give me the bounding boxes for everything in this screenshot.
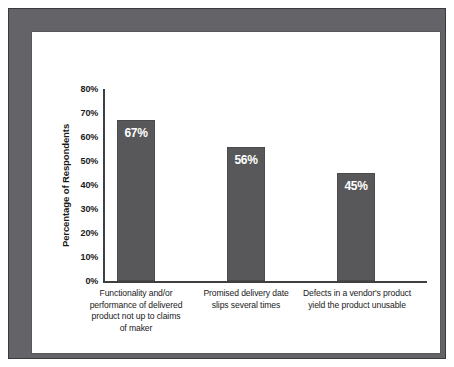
category-label-functionality-line-1: Functionality and/or (71, 288, 201, 300)
category-label-defects: Defects in a vendor's product yield the … (287, 288, 427, 311)
bar-functionality[interactable]: 67% (117, 120, 155, 281)
y-tick-label-80: 80% (44, 84, 98, 94)
bar-value-label-3: 45% (338, 179, 374, 193)
bar-defects[interactable]: 45% (337, 173, 375, 281)
y-tick-label-70: 70% (44, 108, 98, 118)
y-tick-label-10: 10% (44, 252, 98, 262)
y-tick-label-20: 20% (44, 228, 98, 238)
plot-area: Percentage of Respondents 80% 70% 60% 50… (32, 32, 440, 353)
y-tick-label-0: 0% (44, 276, 98, 286)
chart-panel: Percentage of Respondents 80% 70% 60% 50… (31, 31, 441, 354)
y-tick-label-60: 60% (44, 132, 98, 142)
category-label-functionality-line-3: product not up to claims (71, 311, 201, 323)
y-tick-label-50: 50% (44, 156, 98, 166)
category-label-defects-line-1: Defects in a vendor's product (287, 288, 427, 300)
bar-delivery-date[interactable]: 56% (227, 147, 265, 281)
category-label-functionality-line-2: performance of delivered (71, 300, 201, 312)
bar-value-label-2: 56% (228, 153, 264, 167)
y-tick-label-40: 40% (44, 180, 98, 190)
category-label-functionality: Functionality and/or performance of deli… (71, 288, 201, 334)
category-label-defects-line-2: yield the product unusable (287, 300, 427, 312)
x-axis-line (103, 281, 427, 283)
figure-outer-frame: Percentage of Respondents 80% 70% 60% 50… (8, 8, 446, 359)
bar-value-label-1: 67% (118, 126, 154, 140)
category-label-functionality-line-4: of maker (71, 323, 201, 335)
chart-figure: Percentage of Respondents 80% 70% 60% 50… (0, 0, 454, 367)
y-axis-line (103, 89, 105, 283)
y-tick-label-30: 30% (44, 204, 98, 214)
